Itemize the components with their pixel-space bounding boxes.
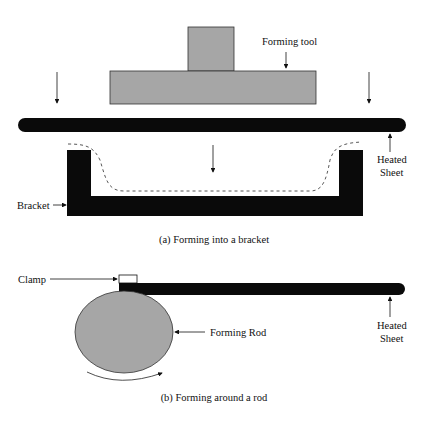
heated-sheet-b: [119, 283, 405, 295]
forming-rod-label: Forming Rod: [210, 327, 267, 338]
caption-b: (b) Forming around a rod: [161, 392, 268, 404]
heated-sheet-label-a-1: Heated: [377, 154, 407, 165]
heated-sheet-label-b-1: Heated: [377, 320, 407, 331]
caption-a: (a) Forming into a bracket: [159, 234, 269, 246]
bracket: [67, 150, 363, 216]
forming-rod: [75, 291, 173, 373]
bracket-label: Bracket: [17, 200, 50, 211]
clamp: [119, 275, 137, 283]
forming-tool-label: Forming tool: [262, 36, 317, 47]
thermoforming-diagram: Forming tool Heated Sheet Bracket (a) Fo…: [0, 0, 428, 423]
heated-sheet-a: [18, 118, 406, 132]
heated-sheet-label-a-2: Sheet: [380, 167, 403, 178]
formed-sheet-outline: [68, 142, 362, 191]
clamp-label: Clamp: [18, 274, 46, 285]
heated-sheet-label-b-2: Sheet: [380, 333, 403, 344]
